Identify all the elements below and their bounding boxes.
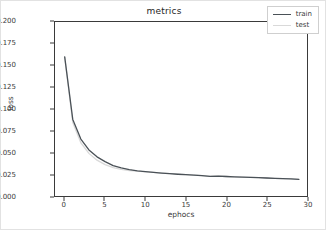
legend-swatch-train [273, 14, 291, 15]
y-tick-label: 0.150 [0, 61, 16, 69]
x-tick-mark [267, 197, 268, 201]
x-tick-mark [185, 197, 186, 201]
x-tick-mark [104, 197, 105, 201]
series-line-train [65, 57, 299, 179]
y-tick-label: 0.125 [0, 83, 16, 91]
chart-figure: metrics loss ephocs 0.0000.0250.0500.075… [0, 0, 326, 230]
x-tick-label: 10 [141, 201, 150, 209]
x-tick-label: 5 [102, 201, 106, 209]
x-tick-label: 25 [263, 201, 272, 209]
x-tick-mark [63, 197, 64, 201]
x-tick-label: 20 [222, 201, 231, 209]
y-tick-label: 0.025 [0, 171, 16, 179]
y-tick-label: 0.000 [0, 193, 16, 201]
legend-label: test [296, 22, 309, 29]
y-tick-label: 0.175 [0, 39, 16, 47]
y-tick-label: 0.050 [0, 149, 16, 157]
y-tick-label: 0.075 [0, 127, 16, 135]
series-lines [55, 22, 307, 196]
legend-label: train [296, 11, 312, 18]
series-line-test [65, 57, 299, 179]
x-tick-label: 15 [181, 201, 190, 209]
x-axis-label: ephocs [54, 210, 308, 219]
x-tick-label: 30 [304, 201, 313, 209]
legend-swatch-test [273, 25, 291, 26]
legend-item-test[interactable]: test [273, 22, 312, 29]
x-tick-mark [145, 197, 146, 201]
x-tick-label: 0 [62, 201, 66, 209]
x-tick-mark [226, 197, 227, 201]
legend-item-train[interactable]: train [273, 11, 312, 18]
y-tick-label: 0.200 [0, 17, 16, 25]
chart-legend[interactable]: traintest [267, 6, 319, 34]
y-tick-label: 0.100 [0, 105, 16, 113]
x-tick-mark [308, 197, 309, 201]
plot-area [54, 21, 308, 197]
